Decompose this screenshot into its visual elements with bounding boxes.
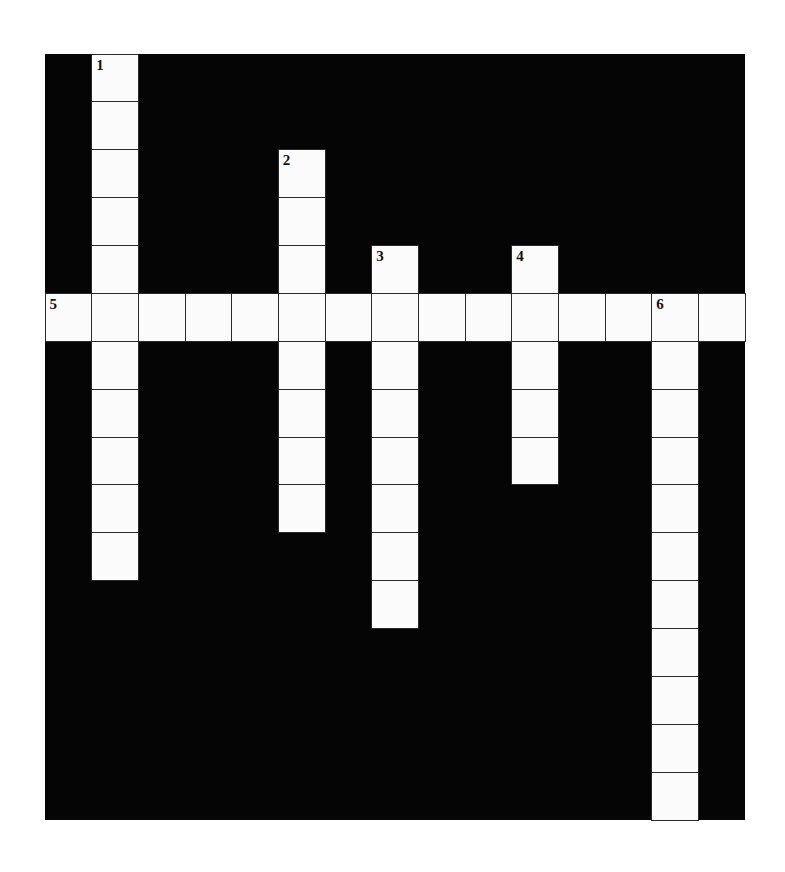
letter-input[interactable] (699, 294, 745, 341)
crossword-cell[interactable] (325, 293, 373, 342)
crossword-cell[interactable] (91, 149, 139, 198)
letter-input[interactable] (92, 485, 138, 532)
letter-input[interactable] (186, 294, 232, 341)
crossword-cell[interactable] (91, 341, 139, 390)
crossword-cell[interactable] (511, 437, 559, 486)
crossword-cell[interactable] (91, 437, 139, 486)
crossword-cell[interactable] (651, 341, 699, 390)
letter-input[interactable] (652, 725, 698, 772)
letter-input[interactable] (92, 150, 138, 197)
letter-input[interactable] (46, 294, 92, 341)
crossword-cell[interactable] (651, 484, 699, 533)
crossword-cell[interactable] (558, 293, 606, 342)
letter-input[interactable] (466, 294, 512, 341)
letter-input[interactable] (326, 294, 372, 341)
letter-input[interactable] (372, 390, 418, 437)
crossword-cell[interactable] (605, 293, 653, 342)
letter-input[interactable] (92, 55, 138, 102)
letter-input[interactable] (372, 294, 418, 341)
letter-input[interactable] (606, 294, 652, 341)
letter-input[interactable] (512, 438, 558, 485)
crossword-cell[interactable] (371, 484, 419, 533)
letter-input[interactable] (279, 438, 325, 485)
letter-input[interactable] (279, 246, 325, 293)
letter-input[interactable] (92, 198, 138, 245)
letter-input[interactable] (512, 294, 558, 341)
crossword-cell[interactable] (138, 293, 186, 342)
crossword-cell[interactable] (278, 293, 326, 342)
crossword-cell[interactable]: 2 (278, 149, 326, 198)
crossword-cell[interactable] (278, 389, 326, 438)
crossword-cell[interactable] (91, 101, 139, 150)
letter-input[interactable] (279, 198, 325, 245)
crossword-cell[interactable] (371, 341, 419, 390)
crossword-cell[interactable] (91, 484, 139, 533)
letter-input[interactable] (652, 438, 698, 485)
crossword-cell[interactable]: 1 (91, 54, 139, 103)
letter-input[interactable] (652, 294, 698, 341)
crossword-cell[interactable] (698, 293, 746, 342)
crossword-cell[interactable] (91, 532, 139, 581)
letter-input[interactable] (92, 342, 138, 389)
crossword-cell[interactable] (185, 293, 233, 342)
letter-input[interactable] (372, 581, 418, 628)
letter-input[interactable] (92, 102, 138, 149)
crossword-cell[interactable] (651, 437, 699, 486)
crossword-cell[interactable] (371, 389, 419, 438)
crossword-cell[interactable] (91, 293, 139, 342)
crossword-cell[interactable] (278, 245, 326, 294)
crossword-cell[interactable] (91, 245, 139, 294)
crossword-cell[interactable] (651, 580, 699, 629)
letter-input[interactable] (372, 438, 418, 485)
letter-input[interactable] (232, 294, 278, 341)
crossword-cell[interactable] (278, 197, 326, 246)
crossword-cell[interactable] (231, 293, 279, 342)
crossword-cell[interactable] (371, 532, 419, 581)
crossword-cell[interactable] (651, 724, 699, 773)
letter-input[interactable] (279, 390, 325, 437)
letter-input[interactable] (652, 533, 698, 580)
letter-input[interactable] (279, 485, 325, 532)
crossword-cell[interactable]: 3 (371, 245, 419, 294)
letter-input[interactable] (92, 438, 138, 485)
crossword-cell[interactable] (91, 389, 139, 438)
letter-input[interactable] (652, 629, 698, 676)
letter-input[interactable] (512, 342, 558, 389)
letter-input[interactable] (279, 294, 325, 341)
letter-input[interactable] (512, 390, 558, 437)
crossword-cell[interactable] (651, 676, 699, 725)
letter-input[interactable] (372, 342, 418, 389)
letter-input[interactable] (652, 485, 698, 532)
crossword-cell[interactable] (371, 293, 419, 342)
crossword-cell[interactable] (511, 389, 559, 438)
letter-input[interactable] (652, 773, 698, 820)
letter-input[interactable] (559, 294, 605, 341)
crossword-cell[interactable] (278, 341, 326, 390)
crossword-cell[interactable] (511, 293, 559, 342)
crossword-cell[interactable] (418, 293, 466, 342)
letter-input[interactable] (92, 390, 138, 437)
letter-input[interactable] (652, 677, 698, 724)
crossword-cell[interactable] (278, 437, 326, 486)
crossword-cell[interactable] (651, 772, 699, 821)
crossword-cell[interactable]: 6 (651, 293, 699, 342)
letter-input[interactable] (92, 294, 138, 341)
crossword-cell[interactable] (651, 389, 699, 438)
letter-input[interactable] (652, 581, 698, 628)
letter-input[interactable] (279, 150, 325, 197)
letter-input[interactable] (652, 342, 698, 389)
letter-input[interactable] (652, 390, 698, 437)
letter-input[interactable] (419, 294, 465, 341)
letter-input[interactable] (139, 294, 185, 341)
crossword-cell[interactable]: 4 (511, 245, 559, 294)
letter-input[interactable] (372, 533, 418, 580)
letter-input[interactable] (372, 246, 418, 293)
crossword-cell[interactable] (651, 532, 699, 581)
crossword-cell[interactable] (91, 197, 139, 246)
crossword-cell[interactable] (651, 628, 699, 677)
crossword-cell[interactable] (511, 341, 559, 390)
letter-input[interactable] (279, 342, 325, 389)
crossword-cell[interactable] (465, 293, 513, 342)
letter-input[interactable] (92, 246, 138, 293)
crossword-cell[interactable] (371, 580, 419, 629)
